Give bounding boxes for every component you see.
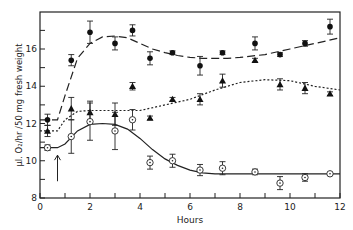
- data-point-open-circle-dot: [304, 177, 306, 179]
- data-point-filled-circle: [147, 56, 153, 62]
- x-tick-label: 10: [284, 202, 296, 212]
- filled-circles-fit-line: [40, 36, 340, 120]
- y-axis-label: µl. O₂/hr /50 mg fresh weight: [14, 43, 24, 167]
- data-point-filled-circle: [87, 29, 93, 35]
- x-tick-label: 12: [334, 202, 345, 212]
- data-point-triangle: [252, 57, 259, 63]
- data-point-filled-circle: [220, 50, 226, 56]
- data-point-filled-circle: [170, 50, 176, 56]
- data-point-open-circle-dot: [199, 169, 201, 171]
- data-point-filled-circle: [277, 52, 283, 58]
- y-tick-label: 14: [26, 81, 38, 91]
- x-axis-label: Hours: [177, 215, 204, 225]
- data-point-open-circle-dot: [114, 130, 116, 132]
- data-point-open-circle-dot: [172, 160, 174, 162]
- y-tick-label: 8: [31, 193, 37, 203]
- data-point-triangle: [219, 77, 226, 83]
- x-tick-label: 0: [37, 202, 43, 212]
- data-point-open-circle-dot: [329, 173, 331, 175]
- x-tick-label: 2: [87, 202, 93, 212]
- data-point-triangle: [277, 81, 284, 87]
- data-point-open-circle-dot: [89, 121, 91, 123]
- data-point-triangle: [197, 96, 204, 102]
- open-circles-fit-line: [40, 124, 340, 174]
- y-tick-label: 10: [26, 156, 38, 166]
- x-tick-label: 6: [187, 202, 193, 212]
- data-point-filled-circle: [112, 41, 118, 47]
- data-point-triangle: [147, 114, 154, 120]
- y-tick-label: 16: [26, 44, 38, 54]
- data-point-triangle: [68, 105, 75, 111]
- data-point-open-circle-dot: [47, 147, 49, 149]
- data-point-filled-circle: [130, 28, 136, 34]
- chart: 024681012810121416Hoursµl. O₂/hr /50 mg …: [0, 0, 353, 230]
- data-point-triangle: [169, 96, 176, 102]
- chart-svg: 024681012810121416Hoursµl. O₂/hr /50 mg …: [0, 0, 353, 230]
- data-point-open-circle-dot: [279, 182, 281, 184]
- data-point-filled-circle: [45, 117, 51, 123]
- x-tick-label: 8: [237, 202, 243, 212]
- data-point-filled-circle: [252, 41, 258, 47]
- x-tick-label: 4: [137, 202, 143, 212]
- data-point-triangle: [327, 90, 334, 96]
- data-point-filled-circle: [302, 41, 308, 47]
- data-point-open-circle-dot: [222, 167, 224, 169]
- y-tick-label: 12: [26, 119, 37, 129]
- data-point-triangle: [129, 83, 136, 89]
- data-point-filled-circle: [327, 24, 333, 30]
- data-point-filled-circle: [68, 57, 74, 63]
- data-point-triangle: [302, 85, 309, 91]
- data-point-open-circle-dot: [132, 119, 134, 121]
- data-point-open-circle-dot: [149, 162, 151, 164]
- data-point-open-circle-dot: [254, 171, 256, 173]
- filled-triangles-fit-line: [40, 80, 340, 131]
- data-point-open-circle-dot: [70, 136, 72, 138]
- data-point-filled-circle: [197, 63, 203, 69]
